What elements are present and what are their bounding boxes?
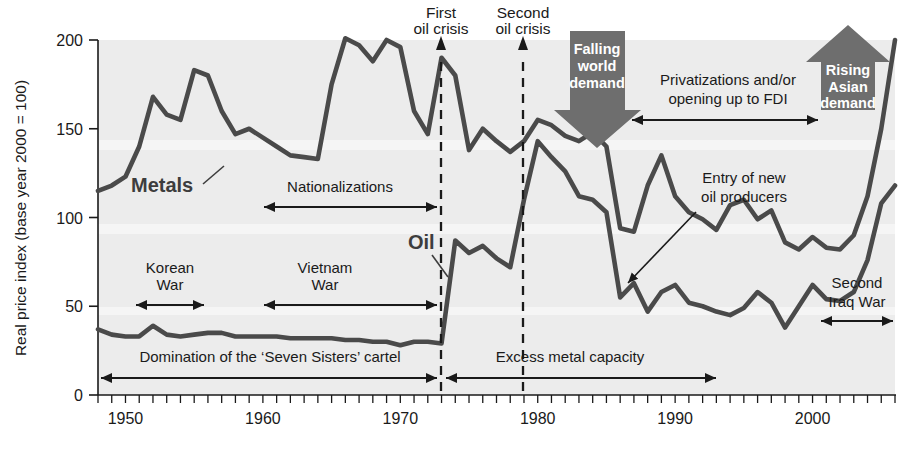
y-axis-tick-label: 100 — [56, 210, 83, 227]
y-axis-tick-label: 0 — [74, 387, 83, 404]
y-axis-tick-label: 150 — [56, 121, 83, 138]
second-iraq-war-label-line2: Iraq War — [829, 293, 886, 310]
y-axis-ticks — [89, 40, 98, 395]
x-axis-tick-label: 1960 — [245, 410, 281, 427]
metals-label-text: Metals — [131, 174, 193, 196]
oil-label-text: Oil — [408, 231, 435, 253]
rising-demand-label-line1: Rising — [826, 62, 870, 78]
second-iraq-war-label-line1: Second — [832, 274, 883, 291]
rising-demand-label-line3: demand — [820, 95, 876, 111]
vietnam-war-label-line1: Vietnam — [298, 259, 353, 276]
excess-metal-capacity-label: Excess metal capacity — [496, 348, 645, 365]
first-oil-crisis-label-line2: oil crisis — [413, 20, 468, 37]
korean-war-label-line1: Korean — [146, 259, 194, 276]
x-axis-tick-label: 1950 — [108, 410, 144, 427]
commodity-price-index-chart: 050100150200 195019601970198019902000 Re… — [0, 0, 923, 470]
first-oil-crisis-label-line1: First — [426, 4, 457, 21]
korean-war-label-line2: War — [157, 276, 184, 293]
entry-new-oil-label-line2: oil producers — [701, 188, 787, 205]
entry-new-oil-label-line1: Entry of new — [702, 169, 786, 186]
privatizations-label-line2: opening up to FDI — [668, 90, 787, 107]
x-axis-ticks — [98, 395, 895, 403]
second-oil-crisis-label-line1: Second — [497, 4, 550, 21]
y-axis-tick-label: 50 — [65, 298, 83, 315]
falling-demand-label-line1: Falling — [574, 41, 621, 57]
y-axis-title: Real price index (base year 2000 = 100) — [12, 80, 29, 356]
y-axis-tick-label: 200 — [56, 32, 83, 49]
x-axis-tick-label: 1980 — [520, 410, 556, 427]
vietnam-war-label-line2: War — [312, 276, 339, 293]
x-axis-tick-label: 2000 — [795, 410, 831, 427]
privatizations-label-line1: Privatizations and/or — [660, 71, 796, 88]
y-axis-tick-labels: 050100150200 — [56, 32, 83, 404]
second-oil-crisis-label-line2: oil crisis — [495, 20, 550, 37]
seven-sisters-label: Domination of the ‘Seven Sisters’ cartel — [139, 348, 400, 365]
x-axis-tick-label: 1990 — [657, 410, 693, 427]
falling-demand-label-line3: demand — [569, 75, 625, 91]
rising-demand-label-line2: Asian — [828, 79, 868, 95]
falling-demand-label-line2: world — [577, 58, 617, 74]
nationalizations-label: Nationalizations — [287, 178, 393, 195]
x-axis-tick-label: 1970 — [383, 410, 419, 427]
x-axis-tick-labels: 195019601970198019902000 — [108, 410, 831, 427]
chart-root: 050100150200 195019601970198019902000 Re… — [0, 0, 923, 470]
